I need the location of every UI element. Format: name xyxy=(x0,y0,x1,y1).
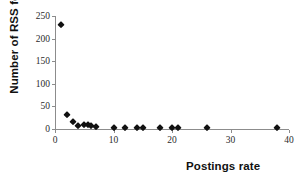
x-tick-mark xyxy=(289,130,290,133)
data-point xyxy=(139,124,147,132)
plot-area: 050100150200250 010203040 xyxy=(55,16,289,130)
y-tick-label: 200 xyxy=(36,34,50,44)
y-axis-title: Number of RSS feeds xyxy=(8,0,20,100)
y-tick-mark xyxy=(52,39,55,40)
y-tick-label: 250 xyxy=(36,11,50,21)
y-tick-mark xyxy=(52,61,55,62)
y-tick-label: 150 xyxy=(36,56,50,66)
data-point xyxy=(63,111,71,119)
x-tick-label: 10 xyxy=(109,135,119,145)
data-point xyxy=(273,124,281,132)
y-axis-line xyxy=(55,16,56,130)
data-point xyxy=(110,124,118,132)
x-tick-label: 40 xyxy=(284,135,294,145)
scatter-chart-figure: Number of RSS feeds 050100150200250 0102… xyxy=(0,0,306,183)
x-tick-label: 20 xyxy=(167,135,177,145)
data-point xyxy=(203,124,211,132)
y-tick-label: 100 xyxy=(36,79,50,89)
data-point xyxy=(174,124,182,132)
x-tick-mark xyxy=(55,130,56,133)
x-axis-title: Postings rate xyxy=(186,160,260,172)
data-point xyxy=(57,21,65,29)
x-tick-label: 0 xyxy=(53,135,58,145)
x-tick-label: 30 xyxy=(226,135,236,145)
data-point xyxy=(121,124,129,132)
y-tick-mark xyxy=(52,106,55,107)
y-tick-label: 0 xyxy=(45,124,50,134)
y-tick-mark xyxy=(52,16,55,17)
y-tick-label: 50 xyxy=(41,101,51,111)
data-point xyxy=(156,124,164,132)
y-tick-mark xyxy=(52,84,55,85)
x-tick-mark xyxy=(231,130,232,133)
